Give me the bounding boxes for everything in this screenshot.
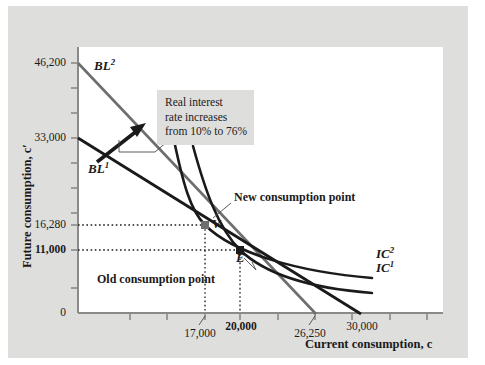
shift-arrow bbox=[97, 123, 146, 162]
y-tick-11000: 11,000 bbox=[0, 243, 66, 255]
point-label-e: E bbox=[236, 250, 245, 266]
x-axis-ticks bbox=[130, 313, 427, 320]
interest-rate-annotation: Real interest rate increases from 10% to… bbox=[157, 90, 254, 145]
xtick-leader-26250 bbox=[309, 316, 315, 325]
x-axis-label: Current consumption, c bbox=[305, 337, 432, 352]
bl2-base: BL bbox=[94, 58, 111, 73]
budget-line-2-label: BL2 bbox=[94, 57, 115, 74]
annotation-line-1: Real interest bbox=[165, 95, 247, 110]
budget-line-1-label: BL1 bbox=[88, 160, 109, 177]
bl1-superscript: 1 bbox=[105, 160, 109, 170]
ic1-base: IC bbox=[376, 260, 390, 275]
point-marker-v bbox=[201, 221, 209, 229]
y-tick-0: 0 bbox=[0, 306, 66, 318]
chart-canvas bbox=[0, 0, 485, 365]
annotation-line-2: rate increases bbox=[165, 110, 247, 125]
y-axis-ticks bbox=[71, 63, 78, 288]
ic1-superscript: 1 bbox=[390, 259, 394, 269]
bl2-superscript: 2 bbox=[111, 57, 115, 67]
old-consumption-point-callout: Old consumption point bbox=[97, 272, 215, 287]
ic2-superscript: 2 bbox=[390, 245, 394, 255]
point-label-v: V bbox=[212, 216, 221, 232]
y-tick-33000: 33,000 bbox=[0, 131, 66, 143]
indifference-curve-1-label: IC1 bbox=[376, 259, 394, 276]
new-consumption-point-callout: New consumption point bbox=[234, 190, 355, 205]
y-tick-16280: 16,280 bbox=[0, 218, 66, 230]
bl1-base: BL bbox=[88, 161, 105, 176]
x-tick-20000: 20,000 bbox=[212, 320, 270, 332]
y-tick-46200: 46,200 bbox=[0, 56, 66, 68]
guide-lines bbox=[78, 225, 240, 313]
xtick-leader-17000 bbox=[199, 316, 205, 325]
annotation-line-3: from 10% to 76% bbox=[165, 124, 247, 139]
x-tick-30000: 30,000 bbox=[333, 320, 391, 332]
